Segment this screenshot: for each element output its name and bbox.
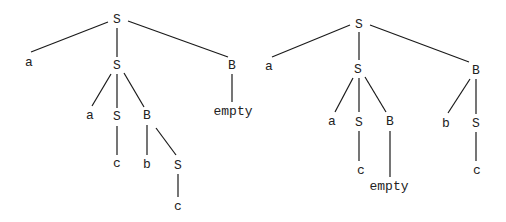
tree-edge xyxy=(128,21,228,57)
tree-node: c xyxy=(473,164,481,178)
tree-node: a xyxy=(86,109,94,123)
tree-node: S xyxy=(113,59,121,73)
tree-node: c xyxy=(113,157,121,171)
tree-node: b xyxy=(143,158,151,172)
tree-node: S xyxy=(355,18,363,32)
tree-left-edges xyxy=(31,21,232,197)
tree-node: a xyxy=(265,60,273,74)
tree-edge xyxy=(365,77,386,112)
tree-edge xyxy=(370,25,469,62)
tree-right-edges xyxy=(272,25,476,177)
tree-node: S xyxy=(355,116,363,130)
tree-node: empty xyxy=(369,180,408,194)
tree-node: B xyxy=(472,64,480,78)
tree-edge xyxy=(124,73,144,107)
tree-node: B xyxy=(143,109,151,123)
tree-edge xyxy=(92,74,111,106)
tree-edge xyxy=(272,25,350,57)
tree-node: S xyxy=(113,110,121,124)
tree-node: S xyxy=(174,159,182,173)
tree-node: c xyxy=(174,200,182,214)
tree-edge xyxy=(156,128,176,155)
tree-node: b xyxy=(442,117,450,131)
tree-node: empty xyxy=(213,105,252,119)
tree-node: S xyxy=(354,63,362,77)
tree-node: B xyxy=(386,115,394,129)
tree-node: a xyxy=(25,56,33,70)
tree-node: c xyxy=(357,164,365,178)
tree-edge xyxy=(335,78,353,112)
tree-node: S xyxy=(472,117,480,131)
tree-edges xyxy=(0,0,506,222)
tree-edge xyxy=(448,79,470,113)
parse-tree-diagram: SaSBemptyaSBcbScSaSBaSBcemptybSc xyxy=(0,0,506,222)
tree-node: B xyxy=(228,59,236,73)
tree-node: S xyxy=(113,13,121,27)
tree-edge xyxy=(31,22,108,52)
tree-node: a xyxy=(328,115,336,129)
